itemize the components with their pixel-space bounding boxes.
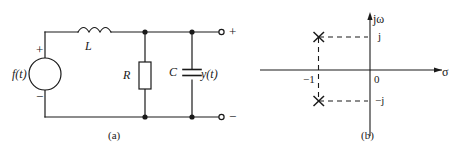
inductor-coil [78, 28, 111, 33]
panel-circuit-schematic: L R C f(t) + − y(t) + − (a) [0, 0, 250, 148]
origin-label: 0 [374, 74, 380, 85]
source-plus-sign: + [36, 43, 43, 56]
junction-dot [142, 114, 147, 119]
junction-dot [142, 29, 147, 34]
capacitor-label: C [169, 66, 177, 78]
real-axis-arrowhead [434, 67, 442, 72]
source-minus-sign: − [36, 90, 43, 103]
junction-dot [189, 114, 194, 119]
figure-container: L R C f(t) + − y(t) + − (a) [0, 0, 456, 148]
real-tick-label-minus-one: −1 [303, 74, 315, 85]
source-label: f(t) [12, 68, 27, 80]
output-minus-sign: − [229, 110, 236, 123]
panel-pole-zero-plot: jω σ 0 −1 j −j (b) [250, 0, 456, 148]
junction-dot [189, 29, 194, 34]
inductor-label: L [85, 40, 92, 52]
output-terminal-minus [219, 114, 224, 119]
imag-axis-arrowhead [367, 12, 372, 20]
resistor-symbol [139, 62, 151, 89]
resistor-label: R [123, 69, 130, 81]
imag-tick-label-minus-j: −j [375, 95, 384, 106]
imag-axis-label: jω [373, 13, 384, 25]
panel-b-caption: (b) [361, 130, 374, 141]
output-label: y(t) [201, 68, 218, 80]
output-terminal-plus [219, 29, 224, 34]
real-axis-label: σ [442, 66, 448, 78]
panel-a-caption: (a) [108, 130, 120, 141]
imag-tick-label-plus-j: j [378, 31, 381, 42]
output-plus-sign: + [229, 25, 236, 38]
voltage-source-symbol [29, 58, 61, 90]
pole-zero-plot-svg [250, 0, 456, 148]
